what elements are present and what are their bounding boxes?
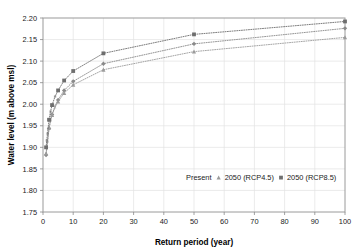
legend-label-1: 2050 (RCP4.5) (225, 173, 274, 182)
x-tick-label: 80 (280, 217, 288, 226)
x-tick-label: 30 (129, 217, 137, 226)
y-tick-label: 2.20 (23, 14, 37, 23)
data-point-1-11 (192, 49, 196, 53)
y-tick-label: 2.10 (23, 57, 37, 66)
data-point-2-3 (47, 118, 51, 122)
data-point-0-12 (343, 26, 347, 30)
y-tick-label: 1.95 (23, 121, 37, 130)
x-axis-title: Return period (year) (155, 238, 234, 247)
data-point-2-9 (71, 69, 75, 73)
y-axis-ticks: 1.751.801.851.901.952.002.052.102.152.20 (23, 14, 43, 217)
y-tick-label: 2.15 (23, 35, 37, 44)
x-tick-label: 100 (339, 217, 351, 226)
data-series (44, 20, 347, 158)
x-tick-label: 50 (190, 217, 198, 226)
series-line-2 (46, 21, 345, 147)
chart-container: 0102030405060708090100 1.751.801.851.901… (0, 0, 361, 252)
y-tick-label: 1.85 (23, 165, 37, 174)
y-tick-label: 2.05 (23, 78, 37, 87)
y-tick-label: 1.80 (23, 186, 37, 195)
data-point-2-2 (46, 132, 48, 134)
data-point-0-11 (192, 42, 196, 46)
legend-label-0: Present (186, 173, 211, 182)
series-line-0 (46, 28, 345, 155)
grid-lines (43, 18, 345, 212)
chart-legend: Present2050 (RCP4.5)2050 (RCP8.5) (186, 173, 336, 182)
data-point-2-10 (102, 51, 106, 55)
y-tick-label: 2.00 (23, 100, 37, 109)
data-point-1-0 (44, 151, 48, 155)
y-axis-title: Water level (m above msl) (7, 65, 16, 166)
data-point-2-6 (54, 95, 56, 97)
data-point-2-0 (44, 145, 48, 149)
x-tick-label: 20 (99, 217, 107, 226)
data-point-2-4 (49, 110, 51, 112)
data-point-2-5 (50, 103, 54, 107)
x-tick-label: 10 (69, 217, 77, 226)
x-tick-label: 70 (250, 217, 258, 226)
x-tick-label: 90 (311, 217, 319, 226)
x-tick-label: 60 (220, 217, 228, 226)
x-axis-ticks: 0102030405060708090100 (41, 212, 351, 226)
data-point-2-12 (343, 20, 347, 24)
legend-label-2: 2050 (RCP8.5) (287, 173, 336, 182)
legend-marker-2 (279, 176, 283, 180)
y-tick-label: 1.90 (23, 143, 37, 152)
data-point-2-7 (56, 89, 60, 93)
y-tick-label: 1.75 (23, 208, 37, 217)
series-line-1 (46, 37, 345, 153)
data-point-2-1 (46, 139, 48, 141)
x-tick-label: 0 (41, 217, 45, 226)
water-level-return-period-chart: 0102030405060708090100 1.751.801.851.901… (0, 0, 361, 252)
data-point-2-8 (62, 79, 66, 83)
data-point-0-10 (101, 61, 105, 65)
legend-marker-1 (217, 175, 221, 179)
data-point-2-11 (192, 32, 196, 36)
x-tick-label: 40 (160, 217, 168, 226)
